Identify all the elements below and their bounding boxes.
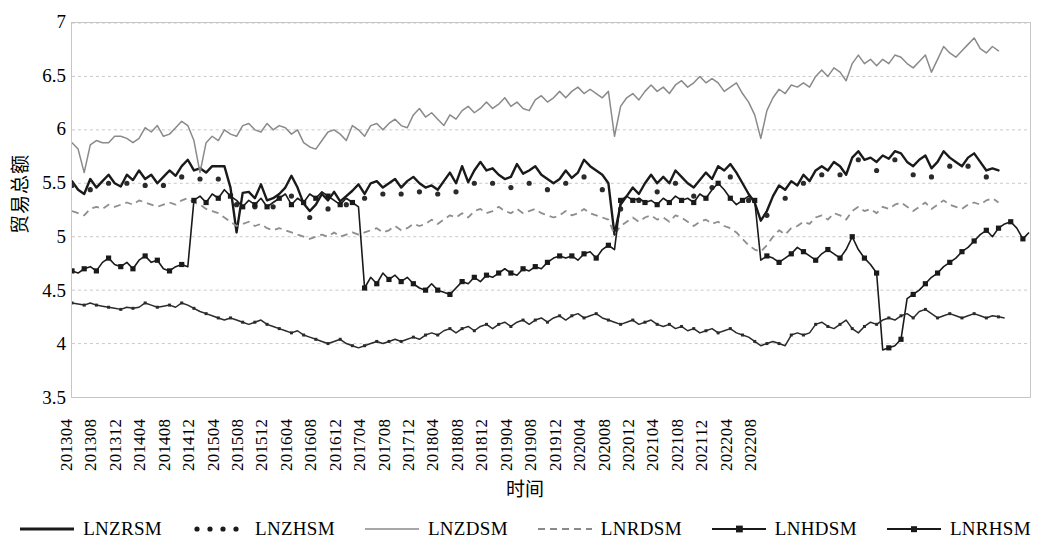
x-tick-label: 201604 [277, 419, 297, 471]
x-tick-label: 201704 [350, 419, 370, 471]
y-tick-label: 7 [20, 12, 66, 31]
x-tick-label: 202208 [741, 419, 761, 471]
legend-key-dashed-gray [536, 521, 594, 537]
legend-label: LNRDSM [601, 518, 682, 540]
legend-item-lnzrsm[interactable]: LNZRSM [4, 518, 176, 540]
x-tick-label: 201404 [130, 419, 150, 471]
plot-area [71, 22, 1031, 398]
x-axis-title: 时间 [0, 474, 1049, 501]
x-tick-label: 201712 [399, 419, 419, 471]
legend-label: LNHDSM [775, 518, 857, 540]
legend-label: LNZRSM [83, 518, 162, 540]
legend-item-lnzdsm[interactable]: LNZDSM [349, 518, 522, 540]
x-axis-tick-labels: 2013042013082013122014042014082014122015… [71, 399, 1031, 471]
legend-label: LNZHSM [255, 518, 335, 540]
x-tick-label: 201308 [81, 419, 101, 471]
legend-key-solid-thick-black [18, 521, 76, 537]
chart-figure: 贸易总额 3.544.555.566.57 201304201308201312… [0, 0, 1049, 550]
x-tick-label: 201312 [106, 419, 126, 471]
x-tick-label: 201304 [57, 419, 77, 471]
series-LNHDSM [72, 181, 1029, 351]
x-tick-label: 201508 [228, 419, 248, 471]
x-tick-label: 201608 [301, 419, 321, 471]
x-tick-label: 201504 [204, 419, 224, 471]
x-tick-label: 202012 [619, 419, 639, 471]
x-tick-label: 202204 [717, 419, 737, 471]
y-tick-label: 3.5 [20, 388, 66, 407]
series-LNRHSM [72, 301, 1005, 347]
x-tick-label: 202008 [595, 419, 615, 471]
chart-legend: LNZRSMLNZHSMLNZDSMLNRDSMLNHDSMLNRHSM [0, 512, 1049, 546]
legend-item-lnrhsm[interactable]: LNRHSM [871, 518, 1045, 540]
legend-item-lnzhsm[interactable]: LNZHSM [176, 518, 349, 540]
plot-svg [72, 23, 1030, 397]
x-tick-label: 202104 [643, 419, 663, 471]
legend-key-dotted-black [190, 521, 248, 537]
x-tick-label: 202004 [570, 419, 590, 471]
legend-key-square-marker-thin [885, 521, 943, 537]
legend-key-solid-thin-gray [363, 521, 421, 537]
x-tick-label: 201812 [472, 419, 492, 471]
x-tick-label: 202108 [668, 419, 688, 471]
legend-label: LNZDSM [428, 518, 508, 540]
x-tick-label: 201512 [252, 419, 272, 471]
y-tick-label: 4.5 [20, 281, 66, 300]
legend-item-lnrdsm[interactable]: LNRDSM [522, 518, 696, 540]
series-LNZRSM [72, 151, 999, 234]
y-tick-label: 6 [20, 119, 66, 138]
y-axis-tick-labels: 3.544.555.566.57 [14, 0, 66, 420]
x-tick-label: 201904 [497, 419, 517, 471]
y-tick-label: 4 [20, 334, 66, 353]
x-tick-label: 201408 [155, 419, 175, 471]
series-LNRDSM [72, 198, 999, 251]
x-tick-label: 201708 [375, 419, 395, 471]
x-tick-label: 201412 [179, 419, 199, 471]
x-tick-label: 201908 [521, 419, 541, 471]
x-tick-label: 202112 [692, 419, 712, 471]
x-tick-label: 201612 [326, 419, 346, 471]
y-tick-label: 6.5 [20, 66, 66, 85]
x-tick-label: 201808 [448, 419, 468, 471]
x-tick-label: 201804 [423, 419, 443, 471]
legend-item-lnhdsm[interactable]: LNHDSM [696, 518, 871, 540]
legend-key-square-marker-black [710, 521, 768, 537]
legend-label: LNRHSM [950, 518, 1031, 540]
x-tick-label: 201912 [546, 419, 566, 471]
y-tick-label: 5.5 [20, 173, 66, 192]
y-tick-label: 5 [20, 227, 66, 246]
gridlines [72, 23, 1030, 344]
